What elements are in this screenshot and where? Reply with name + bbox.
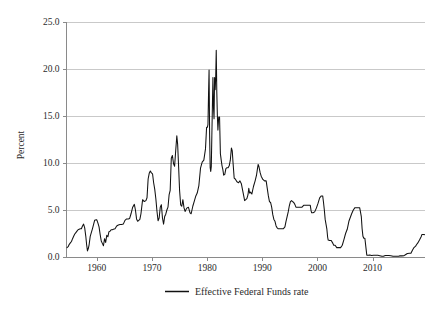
- x-tick-label: 2000: [308, 263, 327, 273]
- x-tick-label: 1980: [198, 263, 217, 273]
- legend-label-effective-federal-funds-rate: Effective Federal Funds rate: [195, 286, 309, 297]
- y-tick-label: 10.0: [43, 158, 60, 168]
- x-tick-label: 1960: [87, 263, 106, 273]
- y-axis-title: Percent: [16, 130, 26, 159]
- y-tick-label: 0.0: [48, 252, 60, 262]
- y-tick-label: 15.0: [43, 111, 60, 121]
- y-tick-label: 25.0: [43, 17, 60, 27]
- x-tick-label: 1990: [253, 263, 272, 273]
- effective-federal-funds-rate-chart: 0.05.010.015.020.025.0 19601970198019902…: [0, 0, 442, 309]
- x-tick-label: 2010: [363, 263, 382, 273]
- y-tick-label: 20.0: [43, 64, 60, 74]
- x-tick-label: 1970: [142, 263, 161, 273]
- y-tick-label: 5.0: [48, 205, 60, 215]
